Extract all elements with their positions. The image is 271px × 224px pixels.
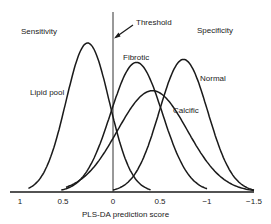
- x-axis-title: PLS-DA prediction score: [82, 211, 169, 219]
- calcific-label: Calcific: [173, 107, 199, 115]
- x-tick-label: 1: [18, 198, 22, 206]
- x-tick-label: −1.5: [246, 198, 262, 206]
- lipid-pool-label: Lipid pool: [30, 89, 64, 97]
- curves-group: [28, 43, 254, 191]
- normal-label: Normal: [200, 75, 226, 83]
- fibrotic-label: Fibrotic: [123, 54, 149, 62]
- sensitivity-label: Sensitivity: [21, 28, 57, 36]
- arrowhead-icon: [114, 33, 121, 39]
- x-tick-label: −1: [202, 198, 211, 206]
- specificity-label: Specificity: [197, 27, 233, 35]
- x-tick-label: 0.5: [57, 198, 68, 206]
- x-tick-label: 0.5: [154, 198, 165, 206]
- threshold-label: Threshold: [136, 19, 172, 27]
- x-tick-label: 0: [111, 198, 115, 206]
